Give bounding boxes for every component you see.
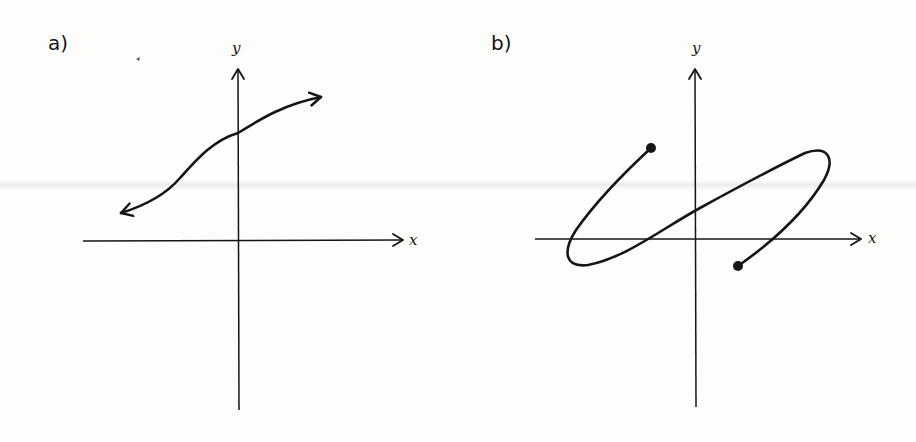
panel-b-start-point [646,143,656,153]
panel-a-y-axis [238,69,239,410]
panel-a-x-label: x [409,231,418,249]
panel-a-x-axis [83,240,403,241]
panel-a: x y [83,39,418,410]
panel-a-y-label: y [231,39,241,57]
graphs-figure: x y x y [0,0,916,442]
panel-b-x-label: x [868,229,877,247]
panel-b-y-label: y [691,39,701,57]
panel-a-curve [121,97,321,213]
scan-speck [136,57,140,61]
panel-b-end-point [733,261,743,271]
panel-b-y-axis [695,69,696,407]
panel-b: x y [535,39,877,407]
panel-b-curve [568,148,830,266]
